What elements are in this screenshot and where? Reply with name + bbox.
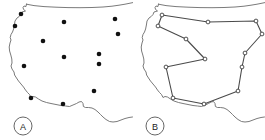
panel-b: B [132, 0, 265, 140]
tour-node [203, 57, 207, 61]
tour-node [164, 65, 168, 69]
tour-node [206, 20, 210, 24]
city-dot [29, 96, 34, 101]
panel-badge-label-a: A [20, 122, 26, 132]
panel-a-canvas: A [0, 0, 133, 140]
tour-node [236, 89, 240, 93]
tour-node [156, 24, 160, 28]
map-outline-west-coast-a [9, 4, 132, 122]
city-dot [22, 64, 27, 69]
city-dot [97, 52, 102, 57]
map-outline-north-border-b [159, 3, 265, 8]
map-outline-north-border-a [27, 3, 133, 8]
tour-node [202, 102, 206, 106]
tour-node [260, 32, 264, 36]
panel-badge-label-b: B [152, 122, 158, 132]
tour-node [171, 96, 175, 100]
city-dot [62, 20, 67, 25]
city-dot [113, 17, 118, 22]
figure-container: A B [0, 0, 265, 140]
city-dot [19, 12, 24, 17]
city-dot [62, 55, 67, 60]
tour-node [184, 37, 188, 41]
city-dot [61, 102, 66, 107]
panel-badge-a: A [14, 117, 32, 135]
panel-b-canvas: B [132, 0, 265, 140]
city-dot [13, 24, 18, 29]
city-dot [41, 39, 46, 44]
tour-node [160, 13, 164, 17]
city-dot [116, 32, 121, 37]
panel-a: A [0, 0, 133, 140]
city-dot [97, 62, 102, 67]
tour-node [240, 65, 244, 69]
tour-node [254, 19, 258, 23]
tour-node-group-b [156, 13, 264, 106]
city-dot [92, 89, 97, 94]
tour-node [243, 51, 247, 55]
panel-badge-b: B [146, 117, 164, 135]
city-dot-group-a [13, 12, 121, 107]
tour-path [158, 15, 262, 104]
